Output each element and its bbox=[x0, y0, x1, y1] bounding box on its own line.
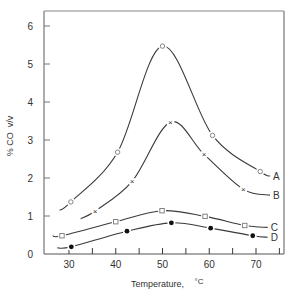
series-label-a: A bbox=[273, 171, 280, 182]
x-marker: × bbox=[168, 118, 173, 127]
open-square-marker bbox=[60, 234, 64, 238]
y-tick-label: 2 bbox=[27, 173, 33, 184]
x-tick-label: 50 bbox=[157, 259, 169, 270]
open-circle-marker bbox=[160, 44, 164, 48]
chart: 3040506070 0123456 ××××× ABCD % CO v/v T… bbox=[0, 0, 296, 298]
open-square-marker bbox=[160, 208, 164, 212]
y-tick-label: 0 bbox=[27, 249, 33, 260]
x-marker: × bbox=[130, 177, 135, 186]
x-tick-label: 60 bbox=[204, 259, 216, 270]
x-axis-label-text: Temperature, bbox=[131, 279, 184, 289]
x-tick-label: 40 bbox=[110, 259, 122, 270]
x-marker: × bbox=[93, 207, 98, 216]
filled-circle-marker bbox=[169, 220, 174, 225]
y-tick-label: 5 bbox=[27, 59, 33, 70]
filled-circle-marker bbox=[69, 244, 74, 249]
x-marker: × bbox=[241, 185, 246, 194]
open-circle-marker bbox=[258, 169, 262, 173]
open-square-marker bbox=[203, 214, 207, 218]
series-label-d: D bbox=[271, 232, 278, 243]
x-marker: × bbox=[202, 150, 207, 159]
x-tick-label: 30 bbox=[63, 259, 75, 270]
y-tick-label: 6 bbox=[27, 21, 33, 32]
open-circle-marker bbox=[115, 150, 119, 154]
open-square-marker bbox=[243, 223, 247, 227]
y-tick-label: 1 bbox=[27, 211, 33, 222]
open-circle-marker bbox=[210, 133, 214, 137]
open-circle-marker bbox=[69, 200, 73, 204]
y-tick-label: 4 bbox=[27, 97, 33, 108]
y-axis-label: % CO v/v bbox=[5, 115, 15, 156]
x-tick-label: 70 bbox=[250, 259, 262, 270]
x-axis-unit: °C bbox=[195, 277, 204, 286]
filled-circle-marker bbox=[125, 229, 130, 234]
filled-circle-marker bbox=[250, 233, 255, 238]
y-tick-label: 3 bbox=[27, 135, 33, 146]
filled-circle-marker bbox=[208, 226, 213, 231]
open-square-marker bbox=[114, 220, 118, 224]
series-label-b: B bbox=[273, 190, 280, 201]
